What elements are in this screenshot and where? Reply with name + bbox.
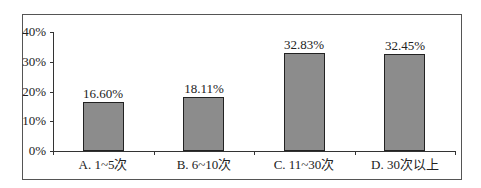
category-label: D. 30次以上 <box>355 158 455 172</box>
y-tick-label: 20% <box>16 85 46 98</box>
bar <box>83 102 124 151</box>
category-label: A. 1~5次 <box>53 158 153 172</box>
value-label: 16.60% <box>68 87 138 100</box>
y-tick <box>50 92 54 93</box>
bar <box>284 53 325 151</box>
x-tick <box>154 151 155 155</box>
category-label: C. 11~30次 <box>254 158 354 172</box>
x-tick <box>355 151 356 155</box>
y-tick-label: 40% <box>16 25 46 38</box>
x-tick <box>53 151 54 155</box>
value-label: 32.45% <box>370 39 440 52</box>
y-tick <box>50 121 54 122</box>
x-tick <box>254 151 255 155</box>
value-label: 18.11% <box>169 82 239 95</box>
value-label: 32.83% <box>269 38 339 51</box>
y-tick-label: 10% <box>16 114 46 127</box>
y-tick-label: 0% <box>16 144 46 157</box>
category-label: B. 6~10次 <box>154 158 254 172</box>
y-tick-label: 30% <box>16 55 46 68</box>
x-tick <box>455 151 456 155</box>
y-tick <box>50 62 54 63</box>
bar <box>384 54 425 151</box>
bar <box>183 97 224 151</box>
y-tick <box>50 32 54 33</box>
